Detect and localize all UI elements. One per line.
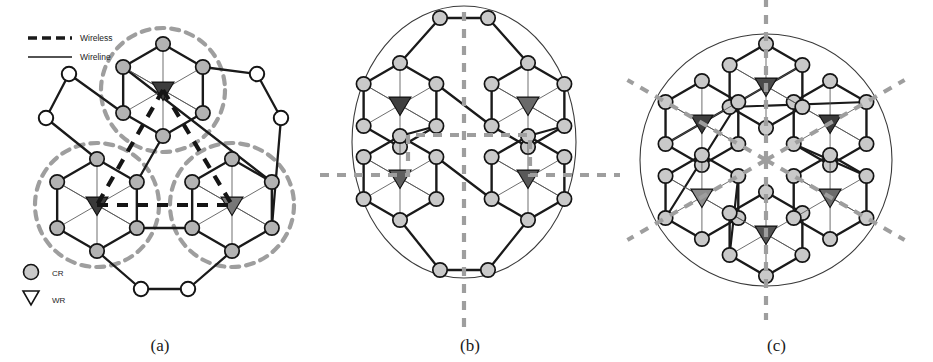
cr-node (130, 221, 144, 235)
cr-node-empty (134, 282, 148, 296)
cr-node (50, 175, 64, 189)
cr-node (225, 244, 239, 258)
node-legend: CR WR (23, 265, 66, 306)
wireline-edge (400, 18, 440, 63)
cr-node (722, 58, 736, 72)
cr-node (695, 232, 709, 246)
cr-node (695, 148, 709, 162)
legend-cr-label: CR (52, 269, 64, 278)
cr-node-empty (39, 111, 53, 125)
cr-node (795, 248, 809, 262)
partition-lines (320, 12, 620, 330)
wr-node (517, 97, 539, 115)
cr-node (823, 74, 837, 88)
cr-node (196, 106, 210, 120)
cr-node (196, 60, 210, 74)
cr-node (356, 192, 370, 206)
cr-node (795, 58, 809, 72)
cr-node (823, 232, 837, 246)
panel-a-canvas: Wireless Wireline CR WR (0, 0, 320, 330)
cr-node (393, 56, 407, 70)
cr-node (429, 150, 443, 164)
cr-node (557, 150, 571, 164)
cr-node (393, 213, 407, 227)
panel-c-caption: (c) (620, 336, 933, 356)
panel-b-caption: (b) (320, 336, 620, 356)
wireline-edge (272, 118, 281, 228)
cr-node (130, 175, 144, 189)
cr-node (185, 175, 199, 189)
cr-node (50, 221, 64, 235)
cr-node (185, 221, 199, 235)
cr-node (859, 169, 873, 183)
legend: Wireless Wireline (28, 33, 113, 62)
cr-node (722, 248, 736, 262)
panel-b-canvas (320, 0, 620, 330)
cr-node (429, 77, 443, 91)
cr-node-empty (62, 67, 76, 81)
cr-node (521, 56, 535, 70)
cr-node (356, 77, 370, 91)
panel-c: (c) (620, 0, 933, 362)
legend-wireline-label: Wireline (80, 52, 111, 62)
cr-node (156, 37, 170, 51)
cr-node (658, 137, 672, 151)
cr-node (429, 192, 443, 206)
cr-node (557, 192, 571, 206)
cr-node (795, 100, 809, 114)
circle-icon (24, 265, 39, 280)
cr-node (433, 263, 447, 277)
cr-node (116, 106, 130, 120)
wireless-link (97, 90, 163, 205)
cr-node (484, 119, 498, 133)
figure-root: Wireless Wireline CR WR (a) (b) (0, 0, 933, 362)
cr-node (225, 152, 239, 166)
cr-node (557, 77, 571, 91)
wr-node (517, 170, 539, 188)
cr-node (859, 137, 873, 151)
cr-node (481, 263, 495, 277)
wireline-edge (488, 220, 528, 270)
cr-node (356, 119, 370, 133)
cr-node (484, 77, 498, 91)
wireline-edge (69, 74, 123, 113)
triangle-down-icon (23, 291, 39, 305)
cr-node (484, 192, 498, 206)
cr-node (521, 213, 535, 227)
cr-node (787, 211, 801, 225)
wireline-edge (46, 118, 97, 159)
cr-node (731, 95, 745, 109)
cr-node (695, 74, 709, 88)
cr-node (823, 148, 837, 162)
panel-c-canvas (620, 0, 933, 330)
wireline-edge (488, 18, 528, 63)
legend-wireless-label: Wireless (80, 33, 113, 43)
cr-node (265, 175, 279, 189)
cr-node (156, 129, 170, 143)
cr-node-empty (274, 111, 288, 125)
panel-b: (b) (320, 0, 620, 362)
cr-node (433, 11, 447, 25)
cr-node (557, 119, 571, 133)
cr-node (484, 150, 498, 164)
wireline-edge (97, 251, 141, 289)
wireline-edge (400, 220, 440, 270)
legend-wr-label: WR (52, 296, 66, 305)
cr-node (658, 169, 672, 183)
cr-node (722, 206, 736, 220)
panel-a-caption: (a) (0, 336, 320, 356)
panel-a: Wireless Wireline CR WR (a) (0, 0, 320, 362)
cluster-boundaries (35, 28, 294, 267)
cr-node (481, 11, 495, 25)
wr-node (389, 97, 411, 115)
wireline-edge (436, 157, 491, 199)
cr-node-empty (181, 282, 195, 296)
cr-node (393, 129, 407, 143)
cr-node (116, 60, 130, 74)
cr-node (90, 244, 104, 258)
cr-node (356, 150, 370, 164)
cr-node (265, 221, 279, 235)
cr-node-empty (250, 67, 264, 81)
cr-node (90, 152, 104, 166)
cr-node (429, 119, 443, 133)
